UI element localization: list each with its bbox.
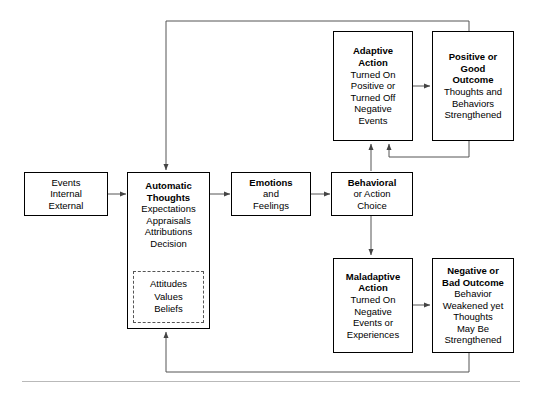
events-line-0: Events: [51, 177, 80, 189]
negative-line-4: Thoughts: [453, 311, 493, 323]
attitudes-line-0: Attitudes: [150, 278, 187, 291]
node-maladaptive-action[interactable]: Maladaptive Action Turned On Negative Ev…: [333, 258, 413, 353]
behavioral-line-2: Choice: [357, 200, 387, 212]
negative-line-1: Bad Outcome: [442, 277, 504, 289]
negative-line-6: Strengthened: [444, 334, 501, 346]
behavioral-line-1: or Action: [354, 188, 391, 200]
adaptive-line-6: Events: [358, 115, 387, 127]
events-line-2: External: [49, 200, 84, 212]
adaptive-line-3: Positive or: [351, 80, 395, 92]
node-positive-good-outcome[interactable]: Positive or Good Outcome Thoughts and Be…: [432, 31, 514, 141]
attitudes-line-1: Values: [154, 291, 182, 304]
emotions-line-1: and: [263, 188, 279, 200]
node-negative-bad-outcome[interactable]: Negative or Bad Outcome Behavior Weakene…: [432, 258, 514, 353]
wire-negative-feedback-to-automatic-thoughts: [166, 332, 469, 372]
automatic-thoughts-line-4: Attributions: [145, 226, 193, 238]
maladaptive-line-1: Action: [358, 282, 388, 294]
automatic-thoughts-line-1: Thoughts: [147, 192, 190, 204]
node-events[interactable]: Events Internal External: [24, 172, 108, 216]
emotions-line-2: Feelings: [253, 200, 289, 212]
positive-line-4: Behaviors: [452, 98, 494, 110]
automatic-thoughts-line-0: Automatic: [145, 180, 191, 192]
node-attitudes-values-beliefs[interactable]: Attitudes Values Beliefs: [133, 271, 204, 323]
adaptive-line-5: Negative: [354, 103, 392, 115]
maladaptive-line-0: Maladaptive: [346, 271, 400, 283]
attitudes-line-2: Beliefs: [154, 303, 183, 316]
automatic-thoughts-line-2: Expectations: [141, 203, 195, 215]
adaptive-line-0: Adaptive: [353, 45, 393, 57]
behavioral-line-0: Behavioral: [348, 177, 397, 189]
node-emotions[interactable]: Emotions and Feelings: [231, 172, 311, 216]
automatic-thoughts-line-5: Decision: [150, 238, 186, 250]
positive-line-3: Thoughts and: [444, 86, 502, 98]
maladaptive-line-4: Events or: [353, 317, 393, 329]
negative-line-2: Behavior: [454, 288, 492, 300]
events-line-1: Internal: [50, 188, 82, 200]
automatic-thoughts-line-3: Appraisals: [146, 215, 190, 227]
emotions-line-0: Emotions: [249, 177, 292, 189]
positive-line-0: Positive or: [449, 51, 498, 63]
negative-line-5: May Be: [457, 323, 489, 335]
adaptive-line-4: Turned Off: [351, 92, 396, 104]
adaptive-line-2: Turned On: [350, 69, 395, 81]
node-adaptive-action[interactable]: Adaptive Action Turned On Positive or Tu…: [333, 31, 413, 141]
positive-line-1: Good: [461, 63, 486, 75]
maladaptive-line-2: Turned On: [350, 294, 395, 306]
bottom-divider-rule: [22, 381, 520, 382]
adaptive-line-1: Action: [358, 57, 388, 69]
maladaptive-line-3: Negative: [354, 306, 392, 318]
negative-line-3: Weakened yet: [443, 300, 504, 312]
maladaptive-line-5: Experiences: [347, 329, 399, 341]
wire-positive-to-adaptive-loop: [389, 141, 469, 157]
positive-line-2: Outcome: [452, 74, 493, 86]
negative-line-0: Negative or: [447, 265, 499, 277]
flowchart-canvas: Events Internal External Automatic Thoug…: [0, 0, 536, 398]
positive-line-5: Strengthened: [444, 109, 501, 121]
wire-positive-feedback-to-automatic-thoughts: [166, 21, 469, 170]
node-behavioral-action-choice[interactable]: Behavioral or Action Choice: [331, 172, 413, 216]
